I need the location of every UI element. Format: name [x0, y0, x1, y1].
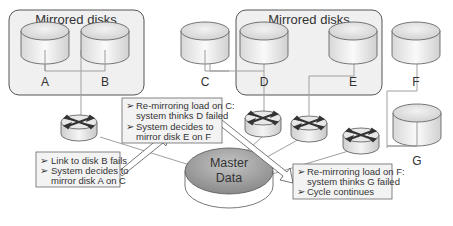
callout-bullet-icon: ➢ — [40, 165, 48, 176]
disk-label: A — [41, 75, 49, 89]
disk-g: G — [387, 104, 441, 168]
callout-line: Cycle continues — [307, 186, 374, 197]
master-data-label-1: Master — [210, 156, 248, 170]
disk-label: D — [260, 75, 269, 89]
callout-2: ➢ Re-mirroring load on C: system thinks … — [122, 98, 235, 143]
disk-label: F — [412, 75, 419, 89]
callout-1: ➢ Link to disk B fails ➢ System decides … — [36, 152, 129, 187]
router-2 — [245, 111, 281, 137]
disk-label: B — [101, 75, 109, 89]
callout-bullet-icon: ➢ — [297, 166, 305, 177]
router-4 — [343, 128, 379, 154]
disk-f: F — [392, 22, 440, 89]
callout-bullet-icon: ➢ — [297, 186, 305, 197]
router-3 — [291, 116, 327, 142]
callout-line: mirror disk E on F — [136, 131, 211, 142]
disk-label: C — [201, 75, 210, 89]
callout-line: mirror disk A on C — [51, 175, 126, 186]
callout-3: ➢ Re-mirroring load on F: system thinks … — [293, 164, 405, 199]
callout-bullet-icon: ➢ — [126, 121, 134, 132]
master-data-label-2: Data — [216, 171, 242, 185]
router-1 — [61, 115, 97, 141]
failure-cascade-diagram: Mirrored disks Mirrored disks A — [0, 0, 453, 226]
disk-label: E — [349, 75, 357, 89]
callout-line: system thinks D failed — [136, 110, 228, 121]
disk-label: G — [412, 154, 421, 168]
callout-bullet-icon: ➢ — [126, 100, 134, 111]
disk-c: C — [181, 22, 229, 89]
